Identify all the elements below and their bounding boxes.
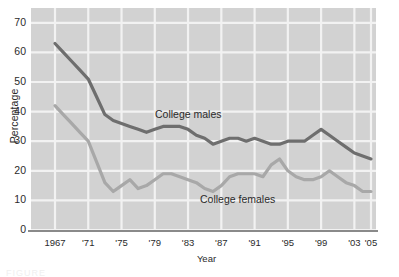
y-tick-label: 10 bbox=[0, 194, 26, 205]
x-tick-label: '79 bbox=[147, 237, 163, 248]
y-tick-label: 0 bbox=[0, 224, 26, 235]
y-tick-label: 50 bbox=[0, 76, 26, 87]
chart-figure: Percentage 010203040506070 1967'71'75'79… bbox=[0, 0, 399, 277]
x-tick-label: '87 bbox=[213, 237, 229, 248]
x-tick-label: '03 bbox=[346, 237, 362, 248]
y-tick-label: 20 bbox=[0, 165, 26, 176]
x-tick-label: '91 bbox=[247, 237, 263, 248]
x-tick-label: '05 bbox=[363, 237, 379, 248]
x-tick-label: '95 bbox=[280, 237, 296, 248]
series-annotation-college-males: College males bbox=[155, 108, 222, 120]
x-tick-label: '75 bbox=[114, 237, 130, 248]
y-tick-label: 60 bbox=[0, 46, 26, 57]
x-axis-line bbox=[28, 230, 378, 232]
x-tick-label: '71 bbox=[80, 237, 96, 248]
series-annotation-college-females: College females bbox=[200, 193, 275, 205]
x-axis-title: Year bbox=[0, 253, 399, 264]
x-tick-label: '83 bbox=[180, 237, 196, 248]
figure-caption: FIGURE bbox=[6, 268, 46, 277]
y-tick-label: 40 bbox=[0, 106, 26, 117]
x-axis-title-text: Year bbox=[183, 253, 216, 264]
x-tick-label: '99 bbox=[313, 237, 329, 248]
y-tick-label: 70 bbox=[0, 17, 26, 28]
y-tick-label: 30 bbox=[0, 135, 26, 146]
x-tick-label: 1967 bbox=[42, 237, 68, 248]
